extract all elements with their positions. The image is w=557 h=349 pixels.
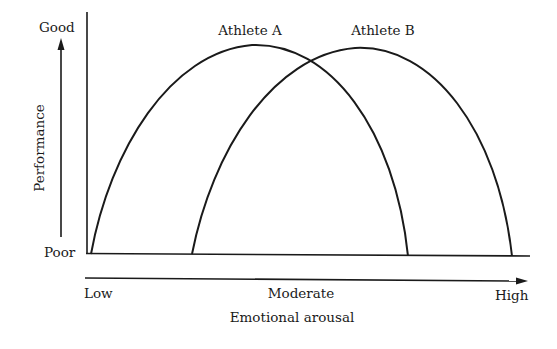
y-axis-title: Performance bbox=[31, 104, 47, 192]
x-axis-baseline bbox=[86, 254, 530, 257]
arrow-up-icon bbox=[58, 38, 65, 50]
curve-athlete-b bbox=[192, 48, 512, 256]
inverted-u-diagram: Good Poor Performance Athlete A Athlete … bbox=[0, 0, 557, 349]
x-middle-label: Moderate bbox=[268, 285, 335, 301]
y-top-label: Good bbox=[39, 19, 75, 35]
x-right-label: High bbox=[495, 287, 529, 303]
arousal-arrow-shaft bbox=[85, 278, 518, 281]
y-bottom-label: Poor bbox=[44, 244, 76, 260]
curve-athlete-a bbox=[91, 45, 408, 256]
diagram-canvas: Good Poor Performance Athlete A Athlete … bbox=[0, 0, 557, 349]
curve-a-label: Athlete A bbox=[217, 22, 282, 38]
x-axis-title: Emotional arousal bbox=[230, 309, 355, 325]
curve-b-label: Athlete B bbox=[350, 22, 415, 38]
arrow-right-icon bbox=[516, 278, 528, 285]
x-left-label: Low bbox=[84, 285, 113, 301]
